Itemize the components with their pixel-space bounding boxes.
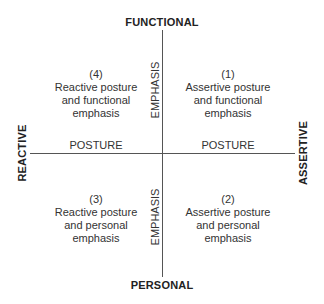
quadrant-text-line: and personal [173, 219, 283, 232]
quadrant-text-line: emphasis [173, 232, 283, 245]
pole-label-assertive: ASSERTIVE [297, 121, 309, 185]
quadrant-text-line: Assertive posture [173, 206, 283, 219]
quadrant-number: (2) [173, 193, 283, 206]
quadrant-text-line: Reactive posture [41, 206, 151, 219]
quadrant-text-line: Reactive posture [41, 81, 151, 94]
vertical-axis-line [162, 30, 163, 277]
quadrant-4: (4) Reactive posture and functional emph… [41, 68, 151, 120]
quadrant-text-line: and functional [41, 94, 151, 107]
quadrant-text-line: Assertive posture [173, 81, 283, 94]
pole-label-personal: PERSONAL [0, 279, 324, 291]
quadrant-text-line: and personal [41, 219, 151, 232]
quadrant-text-line: emphasis [41, 232, 151, 245]
quadrant-number: (3) [41, 193, 151, 206]
quadrant-3: (3) Reactive posture and personal emphas… [41, 193, 151, 245]
quadrant-1: (1) Assertive posture and functional emp… [173, 68, 283, 120]
quadrant-2: (2) Assertive posture and personal empha… [173, 193, 283, 245]
quadrant-text-line: emphasis [173, 107, 283, 120]
axis-label-posture-left: POSTURE [69, 139, 122, 151]
pole-label-functional: FUNCTIONAL [0, 16, 324, 28]
quadrant-number: (1) [173, 68, 283, 81]
quadrant-text-line: and functional [173, 94, 283, 107]
pole-label-reactive: REACTIVE [16, 124, 28, 181]
quadrant-number: (4) [41, 68, 151, 81]
axis-label-posture-right: POSTURE [201, 139, 254, 151]
quadrant-text-line: emphasis [41, 107, 151, 120]
